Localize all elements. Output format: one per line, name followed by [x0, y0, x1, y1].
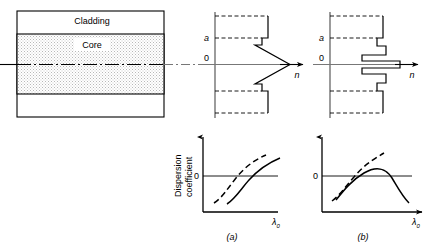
- plot-a-dashed-curve: [214, 155, 266, 203]
- profile-right-zero-label: 0: [319, 53, 324, 63]
- profile-middle-n-label: n: [294, 70, 299, 80]
- figure-root: Cladding Core a 0 n: [0, 0, 445, 247]
- plot-a-zero-label: 0: [194, 171, 199, 181]
- profile-right: a 0 n: [313, 12, 418, 118]
- plot-a-solid-curve: [227, 158, 280, 204]
- plot-b-xlabel: λ0: [411, 217, 420, 229]
- plot-b-solid-curve: [336, 169, 409, 203]
- profile-middle-zero-label: 0: [204, 53, 209, 63]
- plot-b-zero-label: 0: [313, 171, 318, 181]
- plot-a-ylabel-line2: coefficient: [184, 156, 194, 197]
- profile-right-a-label: a: [319, 33, 324, 43]
- dispersion-plot-b: 0 λ0 (b): [313, 137, 422, 242]
- profile-right-n-label: n: [409, 70, 414, 80]
- figure-canvas: Cladding Core a 0 n: [0, 0, 445, 247]
- cladding-label: Cladding: [74, 16, 110, 26]
- dispersion-plot-a: Dispersion coefficient 0 λ0 (a): [173, 137, 280, 242]
- plot-a-ylabel-line1: Dispersion: [173, 154, 183, 197]
- profile-middle: a 0 n: [198, 12, 303, 118]
- plot-a-xlabel: λ0: [271, 217, 280, 229]
- core-label: Core: [82, 40, 102, 50]
- plot-b-caption: (b): [358, 232, 369, 242]
- profile-middle-a-label: a: [204, 33, 209, 43]
- plot-a-caption: (a): [227, 232, 238, 242]
- fiber-cross-section: Cladding Core: [0, 11, 198, 117]
